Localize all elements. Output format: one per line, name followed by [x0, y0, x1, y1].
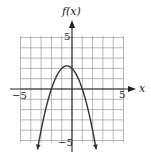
x-tick-max: 5	[119, 89, 125, 100]
x-axis-label: x	[139, 82, 146, 95]
curve-arrow-right-icon	[93, 144, 98, 149]
x-tick-min: −5	[12, 90, 27, 101]
y-tick-max: 5	[64, 31, 70, 42]
y-axis-arrow-icon	[69, 20, 75, 28]
curve-arrow-left-icon	[36, 144, 41, 149]
y-tick-min: −5	[58, 137, 73, 148]
graph: f(x) x −5 5 5 −5	[0, 0, 151, 158]
axes	[10, 20, 136, 152]
y-axis-label: f(x)	[61, 5, 81, 18]
x-axis-arrow-icon	[128, 86, 136, 92]
